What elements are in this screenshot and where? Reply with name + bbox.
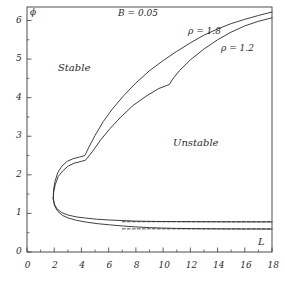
y-tick-label: 1 [16, 207, 22, 217]
y-tick-label: 2 [16, 169, 22, 179]
x-tick-label: 4 [79, 260, 85, 270]
x-tick-label: 8 [134, 260, 140, 270]
curve-label-rho-1-8: ρ = 1.8 [188, 26, 221, 36]
curve-label-rho-1-2: ρ = 1.2 [221, 43, 254, 53]
y-tick-label: 3 [16, 130, 22, 140]
y-tick-label: 5 [16, 53, 22, 63]
x-tick-label: 14 [213, 260, 224, 270]
y-axis-symbol-phi: ϕ [30, 7, 36, 17]
y-tick-label: 6 [16, 15, 22, 25]
y-tick-label: 4 [16, 92, 22, 102]
x-tick-label: 18 [268, 260, 279, 270]
x-tick-label: 10 [159, 260, 170, 270]
x-tick-label: 0 [25, 260, 31, 270]
chart-title: B = 0.05 [118, 8, 158, 18]
curve--1-8-lower [53, 198, 272, 222]
curve--1-2-lower [53, 199, 272, 229]
phase-diagram-figure: B = 0.05 ϕ Stable Unstable ρ = 1.8 ρ = 1… [0, 0, 285, 283]
region-label-unstable: Unstable [173, 137, 219, 148]
x-tick-label: 6 [106, 260, 112, 270]
axis-ticks [27, 21, 272, 252]
y-tick-label: 0 [16, 246, 22, 256]
x-axis-label-L: L [258, 236, 265, 247]
curve--1-8-upper [53, 12, 272, 198]
x-tick-label: 12 [186, 260, 197, 270]
region-label-stable: Stable [58, 62, 90, 73]
x-tick-label: 16 [240, 260, 251, 270]
x-tick-label: 2 [52, 260, 58, 270]
